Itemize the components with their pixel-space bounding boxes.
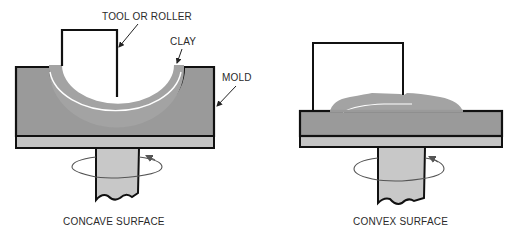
caption-concave: CONCAVE SURFACE — [63, 216, 165, 227]
concave-panel: TOOL OR ROLLER CLAY MOLD CONCAVE SURFACE — [16, 11, 252, 227]
concave-plate — [16, 136, 214, 148]
convex-shaft — [378, 147, 425, 204]
label-mold: MOLD — [222, 72, 252, 83]
convex-panel: CONVEX SURFACE — [300, 43, 502, 227]
diagram-canvas: TOOL OR ROLLER CLAY MOLD CONCAVE SURFACE… — [0, 0, 517, 237]
label-clay: CLAY — [170, 36, 196, 47]
caption-convex: CONVEX SURFACE — [353, 216, 448, 227]
concave-shaft — [96, 148, 139, 200]
label-tool: TOOL OR ROLLER — [102, 11, 192, 22]
convex-mold — [300, 111, 502, 136]
convex-plate — [300, 136, 502, 147]
